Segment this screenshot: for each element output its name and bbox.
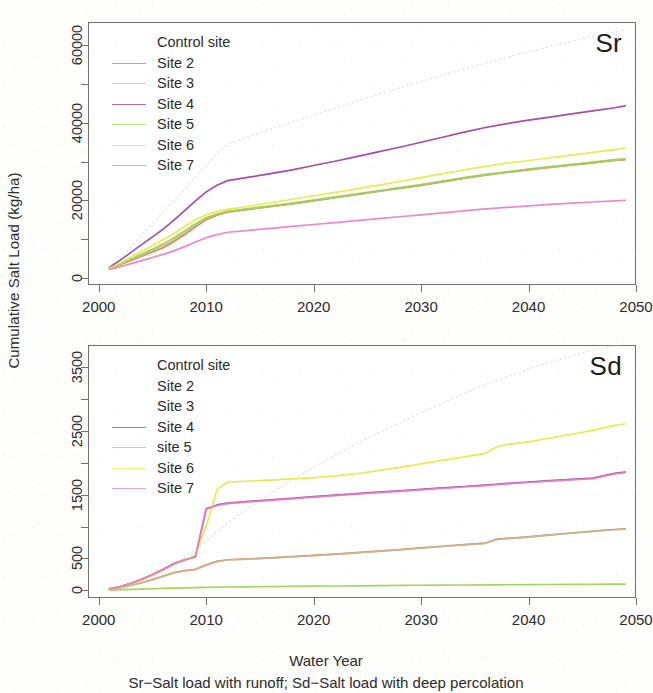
- legend-item: Site 2: [112, 376, 230, 397]
- legend-item: Site 7: [112, 155, 230, 176]
- x-axis-title: Water Year: [0, 652, 652, 669]
- y-tick-mark-minor: [81, 527, 88, 528]
- legend-label: Site 2: [157, 378, 194, 394]
- legend-label: Site 3: [157, 398, 194, 414]
- x-tick-mark: [206, 285, 207, 292]
- y-tick-mark-minor: [81, 162, 88, 163]
- x-tick-mark: [99, 598, 100, 605]
- x-tick-label: 2020: [297, 611, 330, 628]
- y-tick-label: 2500: [69, 431, 85, 463]
- y-tick-label: 60000: [69, 45, 85, 85]
- x-tick-label: 2030: [404, 611, 437, 628]
- legend-item: Site 6: [112, 458, 230, 479]
- legend-label: Site 5: [157, 116, 194, 132]
- x-tick-mark: [99, 285, 100, 292]
- x-tick-mark: [314, 598, 315, 605]
- legend-item: site 5: [112, 437, 230, 458]
- legend-label: Control site: [157, 357, 230, 373]
- legend-sd: Control siteSite 2Site 3Site 4site 5Site…: [112, 355, 230, 499]
- legend-sr: Control siteSite 2Site 3Site 4Site 5Site…: [112, 32, 230, 176]
- legend-label: Site 7: [157, 157, 194, 173]
- y-axis-title-text: Cumulative Salt Load (kg/ha): [5, 172, 22, 368]
- legend-item: Control site: [112, 32, 230, 53]
- x-tick-label: 2050: [619, 611, 652, 628]
- x-tick-label: 2010: [190, 611, 223, 628]
- series-line-site-2: [109, 160, 625, 269]
- y-tick-label: 0: [69, 590, 85, 598]
- x-tick-label: 2000: [82, 611, 115, 628]
- legend-label: Site 6: [157, 460, 194, 476]
- x-tick-label: 2040: [512, 611, 545, 628]
- legend-label: Site 4: [157, 419, 194, 435]
- series-line-site-5: [109, 584, 625, 590]
- x-tick-label: 2050: [619, 298, 652, 315]
- x-tick-mark: [206, 598, 207, 605]
- legend-item: Site 7: [112, 478, 230, 499]
- y-tick-mark-minor: [81, 463, 88, 464]
- legend-item: Site 5: [112, 114, 230, 135]
- y-tick-mark-minor: [81, 239, 88, 240]
- legend-label: Site 7: [157, 480, 194, 496]
- x-tick-label: 2030: [404, 298, 437, 315]
- x-tick-mark: [636, 598, 637, 605]
- legend-label: Site 4: [157, 96, 194, 112]
- x-tick-label: 2010: [190, 298, 223, 315]
- y-tick-mark-minor: [81, 84, 88, 85]
- x-tick-mark: [529, 285, 530, 292]
- x-tick-label: 2040: [512, 298, 545, 315]
- y-axis-title: Cumulative Salt Load (kg/ha): [0, 0, 28, 540]
- legend-label: Control site: [157, 34, 230, 50]
- x-tick-label: 2020: [297, 298, 330, 315]
- series-line-site-7: [109, 200, 625, 269]
- y-tick-label: 1500: [69, 495, 85, 527]
- y-tick-label: 500: [69, 558, 85, 582]
- legend-item: Control site: [112, 355, 230, 376]
- x-tick-mark: [314, 285, 315, 292]
- legend-item: Site 4: [112, 417, 230, 438]
- legend-item: Site 4: [112, 94, 230, 115]
- y-tick-mark-minor: [81, 399, 88, 400]
- y-tick-label: 20000: [69, 200, 85, 240]
- y-tick-label: 3500: [69, 367, 85, 399]
- legend-label: Site 2: [157, 55, 194, 71]
- legend-label: Site 3: [157, 75, 194, 91]
- y-tick-label: 0: [69, 278, 85, 286]
- x-tick-mark: [636, 285, 637, 292]
- legend-label: Site 6: [157, 137, 194, 153]
- panel-label-sr: Sr: [595, 28, 622, 59]
- legend-item: Site 6: [112, 135, 230, 156]
- x-tick-mark: [421, 285, 422, 292]
- panel-label-sd: Sd: [590, 351, 622, 382]
- legend-item: Site 2: [112, 53, 230, 74]
- y-tick-label: 40000: [69, 123, 85, 163]
- legend-label: site 5: [157, 439, 192, 455]
- legend-item: Site 3: [112, 73, 230, 94]
- panel-sd: Sd Control siteSite 2Site 3Site 4site 5S…: [88, 345, 636, 598]
- x-tick-mark: [529, 598, 530, 605]
- x-tick-mark: [421, 598, 422, 605]
- series-line-site-3: [109, 159, 625, 268]
- legend-item: Site 3: [112, 396, 230, 417]
- figure-caption: Sr−Salt load with runoff; Sd−Salt load w…: [0, 674, 652, 691]
- x-tick-label: 2000: [82, 298, 115, 315]
- panel-sr: Sr Control siteSite 2Site 3Site 4Site 5S…: [88, 22, 636, 285]
